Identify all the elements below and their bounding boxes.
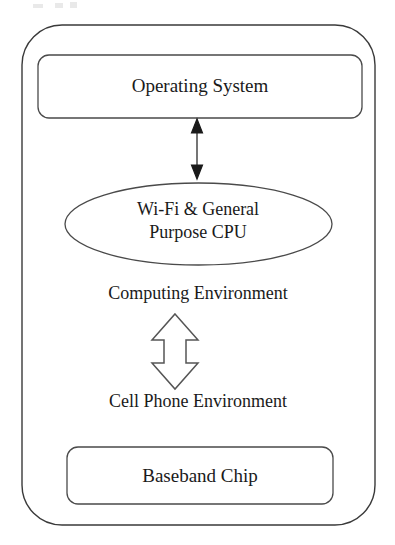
operating-system-label: Operating System xyxy=(38,75,362,97)
wifi-cpu-label-line1: Wi-Fi & General xyxy=(137,199,259,219)
diagram-canvas: Operating System Wi-Fi & General Purpose… xyxy=(0,0,395,545)
environment-connector-arrow xyxy=(152,314,198,389)
baseband-chip-label: Baseband Chip xyxy=(67,465,333,487)
wifi-cpu-label-line2: Purpose CPU xyxy=(149,222,247,242)
os-cpu-connector-arrow xyxy=(192,119,203,179)
cell-phone-environment-label: Cell Phone Environment xyxy=(48,391,348,412)
wifi-cpu-label: Wi-Fi & General Purpose CPU xyxy=(78,198,318,243)
device-outline xyxy=(22,25,375,525)
computing-environment-label: Computing Environment xyxy=(48,283,348,304)
